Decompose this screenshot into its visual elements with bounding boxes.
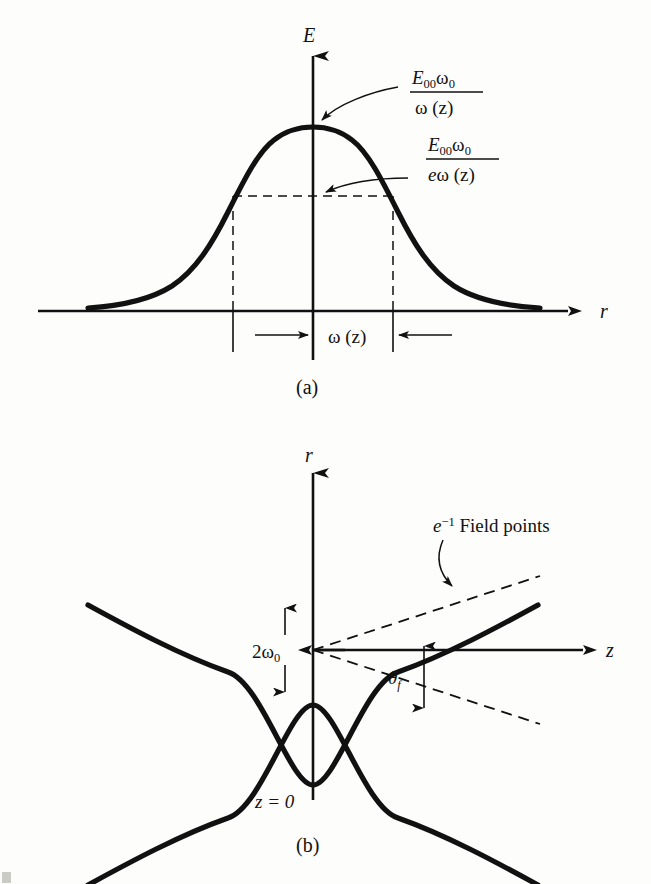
field-points-label: e−1 Field points <box>433 515 550 536</box>
panel-a-y-axis-label: E <box>302 24 315 46</box>
efold-value-label: E00ω0 eω (z) <box>426 134 499 186</box>
efold-label-numerator: E00ω0 <box>427 134 471 158</box>
panel-a-gaussian-profile: E00ω0 ω (z) E00ω0 eω (z) ω (z) E r (a) <box>0 0 651 430</box>
panel-b-beam-waist: 2ω0 θf e−1 Field points r z z = 0 (b) <box>0 430 651 884</box>
figure-root: E00ω0 ω (z) E00ω0 eω (z) ω (z) E r (a) <box>0 0 651 884</box>
upper-asymptote <box>313 576 540 650</box>
panel-b-y-axis-label: r <box>305 444 313 466</box>
waist-label: 2ω0 <box>252 641 280 665</box>
peak-label-numerator: E00ω0 <box>411 67 455 91</box>
panel-a-x-axis-label: r <box>600 300 608 322</box>
field-points-leader-arrow <box>439 540 452 586</box>
efold-leader-arrow <box>326 178 408 192</box>
efold-label-denominator: eω (z) <box>428 164 475 186</box>
peak-value-label: E00ω0 ω (z) <box>410 67 483 119</box>
panel-b-caption: (b) <box>296 834 319 857</box>
origin-label: z = 0 <box>254 791 295 812</box>
width-label: ω (z) <box>328 326 366 348</box>
page-edge-artifact <box>2 872 11 883</box>
panel-a-caption: (a) <box>296 376 318 399</box>
peak-leader-arrow <box>322 87 398 120</box>
peak-label-denominator: ω (z) <box>415 97 453 119</box>
panel-b-x-axis-label: z <box>605 639 614 661</box>
